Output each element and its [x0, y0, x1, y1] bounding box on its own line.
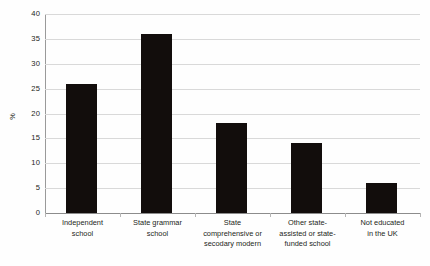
x-tick-mark [45, 213, 46, 217]
x-label-line: Not educated [345, 218, 420, 229]
x-label-line: State grammar [120, 218, 195, 229]
x-tick-mark [345, 213, 346, 217]
x-label-line: in the UK [345, 229, 420, 240]
x-label-other-state-assisted: Other state- assisted or state- funded s… [270, 218, 345, 250]
y-tick-label: 25 [10, 85, 40, 93]
y-tick-label: 5 [10, 184, 40, 192]
plot-area [45, 14, 420, 213]
y-tick-label: 40 [10, 10, 40, 18]
x-label-line: assisted or state- [270, 229, 345, 240]
x-tick-mark [270, 213, 271, 217]
x-label-line: Other state- [270, 218, 345, 229]
x-label-line: funded school [270, 239, 345, 250]
x-tick-mark [420, 213, 421, 217]
x-label-line: school [45, 229, 120, 240]
bar-chart: 40 35 30 25 20 15 10 5 0 % [0, 0, 430, 266]
x-tick-mark [120, 213, 121, 217]
x-label-line: State [195, 218, 270, 229]
x-tick-mark [195, 213, 196, 217]
bar-state-comprehensive [216, 123, 247, 213]
bar-series [45, 14, 420, 213]
x-label-state-comprehensive: State comprehensive or secodary modern [195, 218, 270, 250]
y-tick-label: 10 [10, 159, 40, 167]
bar-not-educated-in-uk [366, 183, 397, 213]
y-tick-label: 0 [10, 209, 40, 217]
y-tick-label: 35 [10, 35, 40, 43]
y-axis-title: % [8, 113, 17, 120]
y-tick-label: 30 [10, 60, 40, 68]
x-axis-labels: Independent school State grammar school … [45, 218, 420, 264]
bar-other-state-assisted [291, 143, 322, 213]
bar-state-grammar-school [141, 34, 172, 213]
bar-independent-school [66, 84, 97, 213]
x-label-state-grammar-school: State grammar school [120, 218, 195, 239]
x-label-line: Independent [45, 218, 120, 229]
x-label-line: comprehensive or [195, 229, 270, 240]
x-label-line: school [120, 229, 195, 240]
x-label-not-educated-in-uk: Not educated in the UK [345, 218, 420, 239]
x-label-independent-school: Independent school [45, 218, 120, 239]
x-label-line: secodary modern [195, 239, 270, 250]
y-tick-label: 15 [10, 134, 40, 142]
axis-baseline [45, 213, 420, 214]
